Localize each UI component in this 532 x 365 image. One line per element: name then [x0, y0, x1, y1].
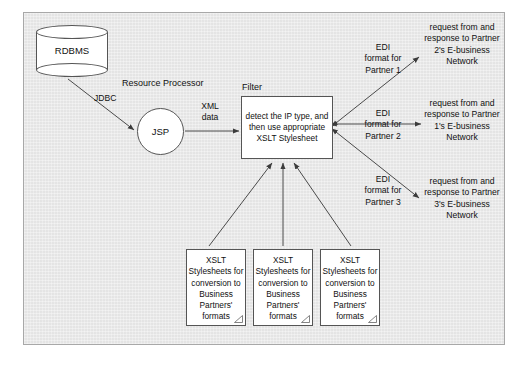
jsp-label: JSP	[152, 126, 169, 137]
edge-label-jdbc: JDBC	[94, 93, 116, 104]
network-label-partner-2: request from and response to Partner 2's…	[424, 22, 500, 68]
document-fold-icon	[234, 315, 243, 323]
network-label-partner-3: request from and response to Partner 3's…	[424, 176, 500, 222]
rdbms-label: RDBMS	[36, 45, 108, 56]
edge-label-edi-partner-1: EDI format for Partner 1	[355, 42, 411, 76]
xslt-doc-1-label: XSLT Stylesheets for conversion to Busin…	[189, 255, 244, 321]
filter-caption: Filter	[242, 82, 262, 93]
diagram-root: RDBMS Resource Processor JSP Filter dete…	[0, 0, 532, 365]
cylinder-top-ellipse	[36, 25, 108, 39]
node-xslt-stylesheet-doc-1[interactable]: XSLT Stylesheets for conversion to Busin…	[186, 249, 246, 326]
xslt-doc-2-label: XSLT Stylesheets for conversion to Busin…	[256, 255, 311, 321]
node-xslt-stylesheet-doc-3[interactable]: XSLT Stylesheets for conversion to Busin…	[320, 249, 380, 326]
edge-label-xml-data: XML data	[193, 101, 227, 124]
resource-processor-caption: Resource Processor	[122, 78, 204, 89]
document-fold-icon	[368, 315, 377, 323]
node-rdbms-database[interactable]: RDBMS	[36, 25, 108, 77]
filter-box-label: detect the IP type, and then use appropr…	[245, 111, 329, 145]
edge-label-edi-partner-3: EDI format for Partner 3	[355, 174, 411, 208]
xslt-doc-3-label: XSLT Stylesheets for conversion to Busin…	[323, 255, 378, 321]
document-fold-icon	[301, 315, 310, 323]
node-jsp-processor[interactable]: JSP	[137, 108, 184, 155]
cylinder-bottom-ellipse	[36, 63, 108, 77]
node-filter-box[interactable]: detect the IP type, and then use appropr…	[241, 96, 333, 159]
network-label-partner-1: request from and response to Partner 1's…	[424, 98, 500, 144]
node-xslt-stylesheet-doc-2[interactable]: XSLT Stylesheets for conversion to Busin…	[253, 249, 313, 326]
edge-label-edi-partner-2: EDI format for Partner 2	[355, 108, 411, 142]
